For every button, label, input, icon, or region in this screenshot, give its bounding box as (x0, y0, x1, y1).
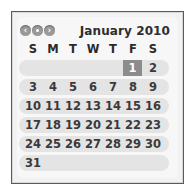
week-row-5: 24 25 26 27 28 29 30 (19, 136, 169, 152)
day-cell[interactable] (43, 155, 63, 171)
day-cell[interactable]: 27 (83, 136, 103, 152)
day-cell[interactable]: 16 (143, 98, 163, 114)
day-cell[interactable]: 20 (83, 117, 103, 133)
week-row-4: 17 18 19 20 21 22 23 (19, 117, 169, 133)
day-cell[interactable] (83, 155, 103, 171)
weekday-tuesday: T (63, 42, 83, 56)
day-cell[interactable]: 19 (63, 117, 83, 133)
day-cell[interactable]: 2 (143, 60, 163, 76)
arrow-left-icon: ‹ (24, 25, 27, 36)
day-cell[interactable]: 30 (143, 136, 163, 152)
day-cell[interactable]: 28 (103, 136, 123, 152)
weekday-friday: F (123, 42, 143, 56)
day-cell[interactable]: 22 (123, 117, 143, 133)
today-button[interactable] (32, 25, 43, 36)
day-cell[interactable] (83, 60, 103, 76)
week-row-3: 10 11 12 13 14 15 16 (19, 98, 169, 114)
week-row-2: 3 4 5 6 7 8 9 (19, 79, 169, 95)
day-cell[interactable]: 4 (43, 79, 63, 95)
day-cell[interactable]: 8 (123, 79, 143, 95)
day-cell[interactable] (123, 155, 143, 171)
month-year-title: January 2010 (80, 24, 170, 38)
weekday-wednesday: W (83, 42, 103, 56)
day-cell[interactable]: 18 (43, 117, 63, 133)
day-cell[interactable]: 5 (63, 79, 83, 95)
day-cell-selected[interactable]: 1 (123, 60, 142, 76)
day-cell[interactable] (103, 60, 123, 76)
day-cell[interactable]: 17 (23, 117, 43, 133)
day-cell[interactable] (63, 60, 83, 76)
weekday-thursday: T (103, 42, 123, 56)
arrow-right-icon: › (48, 25, 51, 36)
day-cell[interactable] (23, 60, 43, 76)
calendar-panel: ‹ › January 2010 S M T W T F S 1 (17, 17, 178, 178)
weekday-header-row: S M T W T F S (17, 42, 178, 56)
day-cell[interactable]: 23 (143, 117, 163, 133)
day-cell[interactable]: 21 (103, 117, 123, 133)
day-cell[interactable]: 29 (123, 136, 143, 152)
day-cell[interactable]: 3 (23, 79, 43, 95)
day-cell[interactable]: 24 (23, 136, 43, 152)
day-cell[interactable]: 14 (103, 98, 123, 114)
calendar-widget: ‹ › January 2010 S M T W T F S 1 (11, 11, 184, 184)
day-cell[interactable] (63, 155, 83, 171)
week-row-6: 31 (19, 155, 169, 171)
day-cell[interactable]: 7 (103, 79, 123, 95)
next-month-button[interactable]: › (44, 25, 55, 36)
day-cell[interactable]: 31 (23, 155, 43, 171)
day-cell[interactable]: 25 (43, 136, 63, 152)
day-cell[interactable] (43, 60, 63, 76)
week-row-1: 1 2 (19, 60, 169, 76)
day-cell[interactable]: 13 (83, 98, 103, 114)
day-cell[interactable] (143, 155, 163, 171)
day-cell[interactable]: 6 (83, 79, 103, 95)
weekday-monday: M (43, 42, 63, 56)
day-cell[interactable]: 12 (63, 98, 83, 114)
day-cell[interactable]: 26 (63, 136, 83, 152)
weekday-saturday: S (143, 42, 163, 56)
day-cell[interactable]: 15 (123, 98, 143, 114)
weekday-sunday: S (23, 42, 43, 56)
dot-icon (36, 29, 39, 32)
previous-month-button[interactable]: ‹ (20, 25, 31, 36)
day-cell[interactable] (103, 155, 123, 171)
day-cell[interactable]: 10 (23, 98, 43, 114)
day-cell[interactable]: 11 (43, 98, 63, 114)
calendar-header: ‹ › January 2010 (17, 24, 178, 40)
day-cell[interactable]: 9 (143, 79, 163, 95)
